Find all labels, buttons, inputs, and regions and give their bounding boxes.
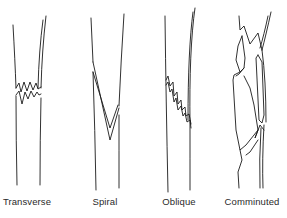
label-spiral: Spiral <box>93 196 118 207</box>
comminuted-fracture-drawing <box>233 12 271 188</box>
oblique-fracture-drawing <box>165 8 195 192</box>
spiral-fracture-drawing <box>91 14 124 190</box>
label-transverse: Transverse <box>3 196 51 207</box>
label-oblique: Oblique <box>162 196 195 207</box>
label-comminuted: Comminuted <box>225 196 280 207</box>
transverse-fracture-drawing <box>13 16 46 185</box>
fracture-types-diagram <box>0 0 287 218</box>
